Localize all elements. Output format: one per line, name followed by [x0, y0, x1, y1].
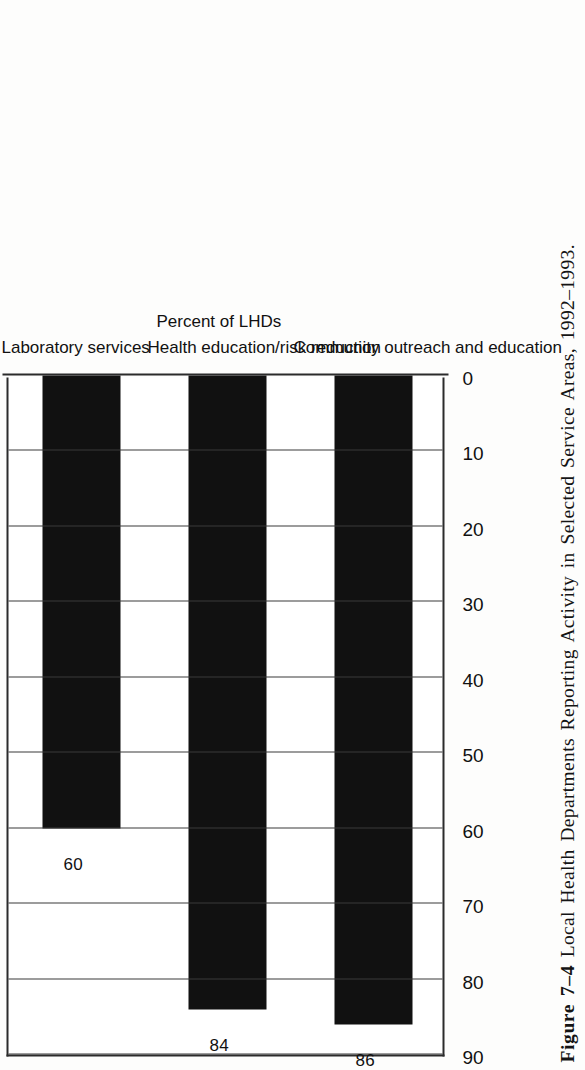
scanned-page: 0102030405060708090 608486 Laboratory se…: [0, 0, 585, 1070]
tick-label-70: 70: [462, 895, 483, 917]
bar: [188, 375, 266, 1009]
tick-label-20: 20: [462, 518, 483, 540]
gridline-50: [8, 751, 442, 752]
tick-label-30: 30: [462, 593, 483, 615]
bar-value-label: 84: [209, 1035, 228, 1055]
figure-caption-text: Local Health Departments Reporting Activ…: [556, 244, 577, 957]
tick-label-80: 80: [462, 971, 483, 993]
value-axis-title: Percent of LHDs: [156, 311, 281, 331]
tick-label-0: 0: [462, 367, 473, 389]
tick-label-40: 40: [462, 669, 483, 691]
tick-label-60: 60: [462, 820, 483, 842]
gridline-40: [8, 676, 442, 677]
gridline-20: [8, 525, 442, 526]
bar-series: [8, 377, 442, 1054]
gridline-60: [8, 827, 442, 828]
plot-frame: [6, 377, 444, 1056]
value-axis-line: [2, 373, 448, 375]
bar-value-label: 60: [63, 854, 82, 874]
gridline-70: [8, 902, 442, 903]
bar-value-label: 86: [355, 1050, 374, 1070]
figure-stage: 0102030405060708090 608486 Laboratory se…: [0, 0, 585, 1070]
figure-caption: Figure 7–4 Local Health Departments Repo…: [555, 8, 579, 1062]
category-label: Community outreach and education: [293, 337, 561, 357]
category-label: Laboratory services: [1, 337, 149, 357]
gridline-10: [8, 449, 442, 450]
bar: [334, 375, 412, 1024]
bar-chart: 0102030405060708090 608486 Laboratory se…: [6, 377, 444, 1056]
tick-label-90: 90: [462, 1046, 483, 1068]
figure-number: Figure 7–4: [556, 964, 577, 1062]
tick-label-10: 10: [462, 442, 483, 464]
gridline-30: [8, 600, 442, 601]
gridline-80: [8, 978, 442, 979]
tick-label-50: 50: [462, 744, 483, 766]
